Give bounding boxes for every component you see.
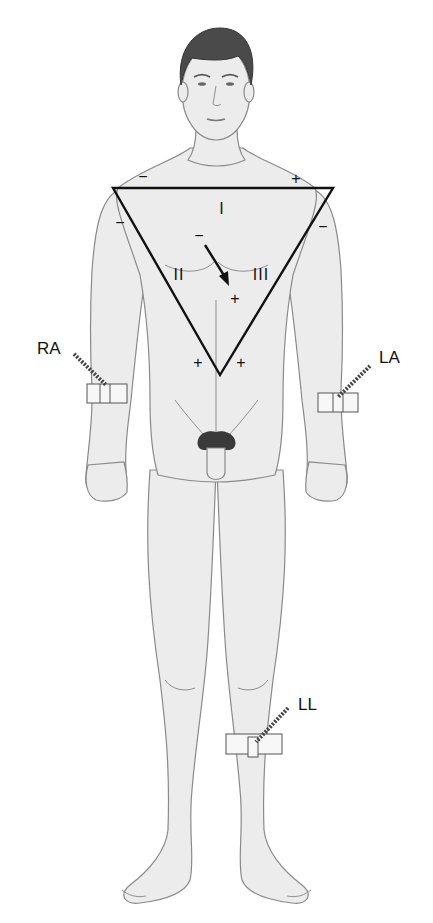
left-eye	[226, 82, 234, 86]
right-ear	[178, 82, 188, 102]
la-label: LA	[379, 348, 400, 367]
ra-label: RA	[37, 339, 61, 358]
ra-band	[87, 384, 127, 403]
right-eye	[198, 82, 206, 86]
ll-band-clip	[248, 737, 258, 757]
left-ear	[244, 82, 254, 102]
genitalia	[207, 448, 225, 480]
left-leg	[217, 470, 308, 903]
human-body-illustration	[86, 28, 348, 903]
lead-III-negative: −	[318, 218, 327, 235]
lead-II-label: II	[174, 266, 185, 283]
axis-negative: −	[194, 227, 203, 244]
lead-I-positive: +	[291, 170, 300, 187]
right-leg	[124, 470, 216, 903]
pubic-hair	[197, 431, 235, 450]
einthoven-triangle-figure: I II III − + − + − + − + RA LA LL	[0, 0, 433, 923]
lead-III-positive: +	[236, 354, 245, 371]
lead-III-label: III	[253, 266, 269, 283]
axis-positive: +	[230, 290, 239, 307]
left-hand	[306, 462, 347, 501]
lead-II-negative: −	[115, 214, 124, 231]
ll-label: LL	[298, 695, 317, 714]
lead-II-positive: +	[193, 354, 202, 371]
right-hand	[86, 462, 127, 501]
la-lead-wire	[338, 366, 370, 397]
lead-I-label: I	[219, 200, 224, 217]
lead-I-negative: −	[138, 168, 147, 185]
